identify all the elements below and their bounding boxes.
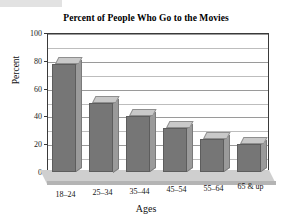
x-tick-label: 45–54 [167,185,187,194]
x-axis-title: Ages [0,203,292,214]
x-tick-label: 25–34 [93,188,113,197]
x-axis-labels: 18–2425–3435–4445–5455–6465 & up [0,0,292,223]
x-tick-label: 55–64 [204,184,224,193]
chart-screenshot: Percent of People Who Go to the Movies 0… [0,0,292,223]
x-tick-label: 35–44 [130,187,150,196]
x-tick-label: 18–24 [56,190,76,199]
x-tick-label: 65 & up [237,182,263,191]
